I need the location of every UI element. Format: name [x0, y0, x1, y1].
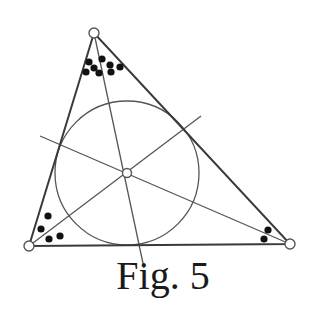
dot-left — [44, 212, 51, 219]
dot-left — [37, 225, 44, 232]
dot-top — [116, 63, 123, 70]
angle-bisectors — [29, 33, 290, 268]
figure-caption: Fig. 5 — [0, 252, 326, 299]
dot-top — [85, 58, 92, 65]
bisector-from-right — [40, 136, 290, 244]
dot-top — [95, 69, 102, 76]
dot-left — [56, 232, 63, 239]
dot-top — [106, 61, 113, 68]
dot-right — [264, 226, 271, 233]
dot-top — [82, 68, 89, 75]
dot-groups — [37, 55, 271, 242]
incenter-point — [123, 169, 132, 178]
vertices — [24, 28, 295, 251]
vertex-right — [285, 239, 295, 249]
dot-right — [260, 235, 267, 242]
dot-top — [98, 55, 105, 62]
vertex-top — [89, 28, 99, 38]
dot-left — [45, 235, 52, 242]
dot-top — [107, 68, 114, 75]
vertex-left — [24, 241, 34, 251]
